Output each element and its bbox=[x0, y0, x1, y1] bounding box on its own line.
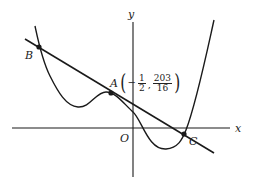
point-a-label: A bbox=[110, 78, 118, 89]
point-b-marker bbox=[36, 44, 41, 49]
close-paren: ) bbox=[174, 72, 180, 94]
x-axis-label: x bbox=[235, 123, 241, 134]
point-b-label: B bbox=[25, 50, 33, 61]
coordinate-separator: , bbox=[148, 80, 151, 90]
x-denominator: 2 bbox=[138, 84, 146, 93]
x-coordinate-fraction: 1 2 bbox=[138, 74, 146, 93]
function-graph-figure: y x O B C A ( − 1 2 , 203 16 ) bbox=[0, 0, 253, 186]
y-coordinate-fraction: 203 16 bbox=[153, 74, 172, 93]
y-numerator: 203 bbox=[153, 74, 172, 84]
y-denominator: 16 bbox=[156, 84, 169, 93]
y-axis-label: y bbox=[128, 9, 134, 20]
point-c-marker bbox=[181, 131, 186, 136]
point-c-label: C bbox=[189, 136, 197, 147]
minus-sign: − bbox=[128, 78, 136, 88]
x-numerator: 1 bbox=[138, 74, 146, 84]
point-a-coordinate-label: A ( − 1 2 , 203 16 ) bbox=[110, 72, 182, 94]
open-paren: ( bbox=[120, 72, 126, 94]
origin-label: O bbox=[120, 133, 129, 144]
